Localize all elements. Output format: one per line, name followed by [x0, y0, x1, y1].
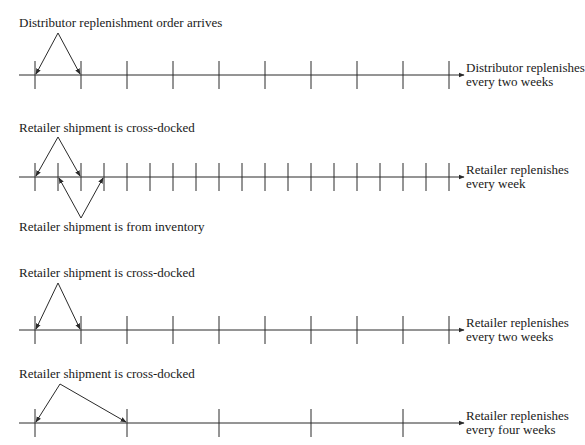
retailer-biweekly-line1: Retailer replenishes	[466, 316, 569, 330]
retailer-weekly-line2: every week	[466, 177, 569, 191]
cross-dock-pointer-arrow	[60, 384, 126, 422]
retailer-weekly-line1: Retailer replenishes	[466, 163, 569, 177]
retailer-fourweekly-line1: Retailer replenishes	[466, 409, 569, 423]
distributor-replenishes-line1: Distributor replenishes	[466, 61, 585, 75]
cross-dock-pointer-arrow	[58, 137, 80, 176]
retailer-biweekly-replenishes-label: Retailer replenishes every two weeks	[466, 316, 569, 344]
inventory-pointer-arrow	[81, 178, 103, 218]
timeline-retailer-fourweekly	[19, 384, 464, 437]
cross-dock-pointer-arrow	[58, 283, 80, 329]
retailer-fourweekly-replenishes-label: Retailer replenishes every four weeks	[466, 409, 569, 437]
cross-dock-pointer-arrow	[36, 283, 58, 329]
retailer-biweekly-line2: every two weeks	[466, 330, 569, 344]
cross-dock-pointer-arrow	[36, 384, 60, 422]
retailer-biweekly-cross-docked-label: Retailer shipment is cross-docked	[19, 265, 195, 280]
timeline-retailer-weekly	[19, 137, 464, 218]
inventory-pointer-arrow	[59, 178, 81, 218]
retailer-fourweekly-line2: every four weeks	[466, 423, 569, 437]
retailer-weekly-cross-docked-label: Retailer shipment is cross-docked	[19, 120, 195, 135]
retailer-weekly-from-inventory-label: Retailer shipment is from inventory	[19, 219, 205, 234]
timeline-distributor	[19, 33, 464, 89]
distributor-replenishes-line2: every two weeks	[466, 75, 585, 89]
retailer-weekly-replenishes-label: Retailer replenishes every week	[466, 163, 569, 191]
distributor-order-arrives-label: Distributor replenishment order arrives	[19, 15, 222, 30]
cross-dock-pointer-arrow	[36, 137, 58, 176]
distributor-replenishes-label: Distributor replenishes every two weeks	[466, 61, 585, 89]
cross-dock-pointer-arrow	[58, 33, 80, 74]
retailer-fourweekly-cross-docked-label: Retailer shipment is cross-docked	[19, 366, 195, 381]
timeline-retailer-biweekly	[19, 283, 464, 344]
cross-dock-pointer-arrow	[36, 33, 58, 74]
